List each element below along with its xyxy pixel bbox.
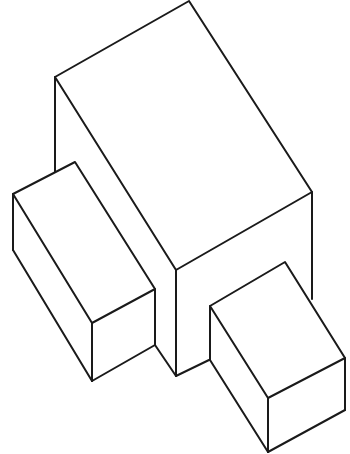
left-block [13,162,155,381]
isometric-blocks-drawing [0,0,350,454]
right-block [210,262,345,452]
main-block [55,1,312,376]
